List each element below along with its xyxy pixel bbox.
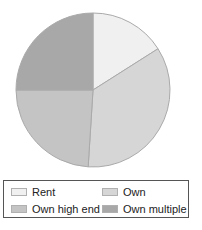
legend-label-own-high-end: Own high end xyxy=(32,203,100,215)
pie-slice-own-high-end xyxy=(16,90,93,167)
legend-swatch-own-multiple xyxy=(102,205,118,213)
legend-label-own-multiple: Own multiple xyxy=(123,203,187,215)
pie-slice-own-multiple xyxy=(16,13,93,90)
legend-swatch-own xyxy=(102,188,118,196)
pie-slices xyxy=(16,13,170,167)
pie-chart xyxy=(0,0,202,178)
legend-item-rent: Rent xyxy=(11,185,55,199)
legend-swatch-rent xyxy=(11,188,27,196)
legend-label-own: Own xyxy=(123,186,146,198)
legend-item-own-high-end: Own high end xyxy=(11,202,100,216)
legend-item-own-multiple: Own multiple xyxy=(102,202,187,216)
legend-label-rent: Rent xyxy=(32,186,55,198)
chart-legend: Rent Own Own high end Own multiple xyxy=(3,180,189,218)
legend-item-own: Own xyxy=(102,185,146,199)
legend-swatch-own-high-end xyxy=(11,205,27,213)
